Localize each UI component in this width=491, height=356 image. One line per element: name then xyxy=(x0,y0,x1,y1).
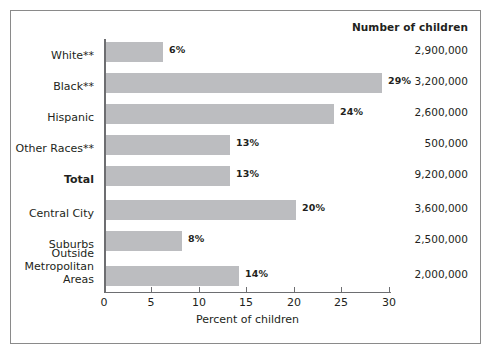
bar-value-total: 13% xyxy=(236,168,259,179)
x-tick-30 xyxy=(389,287,390,292)
bar-row-black: 29% xyxy=(104,70,389,96)
category-label-central-city: Central City xyxy=(29,207,94,220)
chart-frame: Number of children White** Black** Hispa… xyxy=(10,10,481,344)
children-count-central-city: 3,600,000 xyxy=(378,202,468,214)
bar-value-central-city: 20% xyxy=(302,202,325,213)
x-tick-0 xyxy=(104,287,105,292)
bar-row-outside-metropolitan-areas: 14% xyxy=(104,263,389,289)
x-tick-25 xyxy=(341,287,342,292)
bar-row-other-races: 13% xyxy=(104,132,389,158)
category-label-outside-line2: Metropolitan xyxy=(0,260,94,273)
bar-other-races xyxy=(106,135,230,155)
x-axis: 0 5 10 15 20 25 30 xyxy=(104,292,391,293)
x-axis-line xyxy=(104,292,391,293)
bar-row-hispanic: 24% xyxy=(104,101,389,127)
x-tick-label-30: 30 xyxy=(374,296,404,309)
bar-row-total: 13% xyxy=(104,163,389,189)
bar-row-white: 6% xyxy=(104,39,389,65)
x-tick-label-25: 25 xyxy=(326,296,356,309)
bar-white xyxy=(106,42,163,62)
bar-value-white: 6% xyxy=(169,44,185,55)
x-tick-label-15: 15 xyxy=(231,296,261,309)
number-of-children-column-header: Number of children xyxy=(352,21,468,33)
plot-area: 6% 29% 24% 13% 13% 20% 8% 14% xyxy=(104,39,389,292)
children-count-hispanic: 2,600,000 xyxy=(378,106,468,118)
x-tick-5 xyxy=(151,287,152,292)
category-label-other-races: Other Races** xyxy=(16,142,94,155)
category-label-outside-line3: Areas xyxy=(0,273,94,286)
bar-row-suburbs: 8% xyxy=(104,228,389,254)
bar-outside-metropolitan-areas xyxy=(106,266,239,286)
x-axis-title: Percent of children xyxy=(104,313,391,326)
x-tick-label-0: 0 xyxy=(89,296,119,309)
x-tick-label-20: 20 xyxy=(279,296,309,309)
children-count-white: 2,900,000 xyxy=(378,44,468,56)
children-count-suburbs: 2,500,000 xyxy=(378,233,468,245)
category-label-outside-metropolitan-areas: Outside Metropolitan Areas xyxy=(0,247,94,286)
category-label-hispanic: Hispanic xyxy=(47,111,94,124)
x-tick-label-5: 5 xyxy=(136,296,166,309)
chart-header: Number of children xyxy=(11,21,480,39)
category-label-white: White** xyxy=(51,49,94,62)
category-label-outside-line1: Outside xyxy=(0,247,94,260)
children-count-outside-metro: 2,000,000 xyxy=(378,268,468,280)
children-count-other-races: 500,000 xyxy=(378,137,468,149)
children-count-total: 9,200,000 xyxy=(378,168,468,180)
category-label-black: Black** xyxy=(53,80,94,93)
category-label-total: Total xyxy=(64,173,94,186)
x-tick-15 xyxy=(246,287,247,292)
x-tick-10 xyxy=(199,287,200,292)
x-tick-20 xyxy=(294,287,295,292)
bar-value-other-races: 13% xyxy=(236,137,259,148)
bar-total xyxy=(106,166,230,186)
bar-central-city xyxy=(106,200,296,220)
bar-hispanic xyxy=(106,104,334,124)
bar-row-central-city: 20% xyxy=(104,197,389,223)
bar-value-outside-metropolitan-areas: 14% xyxy=(245,268,268,279)
bar-black xyxy=(106,73,382,93)
category-axis-labels: White** Black** Hispanic Other Races** T… xyxy=(11,39,99,292)
children-count-black: 3,200,000 xyxy=(378,75,468,87)
bar-suburbs xyxy=(106,231,182,251)
bar-value-suburbs: 8% xyxy=(188,233,204,244)
x-tick-label-10: 10 xyxy=(184,296,214,309)
bar-value-hispanic: 24% xyxy=(340,106,363,117)
number-of-children-column: 2,900,000 3,200,000 2,600,000 500,000 9,… xyxy=(378,39,468,292)
